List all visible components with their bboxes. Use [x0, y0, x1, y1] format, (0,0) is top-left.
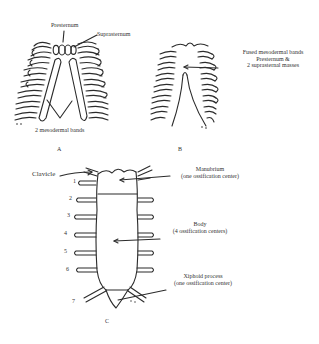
- rib-number-6: 6: [66, 266, 69, 273]
- label-mesodermal-bands: 2 mesodermal bands: [35, 127, 84, 134]
- label-xiphoid: Xiphoid process (one ossification center…: [155, 273, 251, 286]
- label-manubrium-note: (one ossification center): [165, 173, 255, 180]
- rib-number-4: 4: [64, 230, 67, 237]
- panel-caption-a: A: [57, 146, 61, 153]
- label-fused-bands-line2: Presternum &: [228, 56, 318, 63]
- label-body-title: Body: [155, 221, 245, 228]
- panel-caption-b: B: [178, 146, 182, 153]
- panel-caption-c: C: [105, 318, 109, 325]
- rib-number-7: 7: [72, 298, 75, 305]
- label-suprasternum: Suprasternum: [97, 31, 130, 38]
- rib-number-2: 2: [69, 195, 72, 202]
- label-fused-bands-line1: Fused mesodermal bands: [228, 49, 318, 56]
- label-xiphoid-note: (one ossification center): [155, 280, 251, 287]
- label-body-note: (4 ossification centers): [155, 228, 245, 235]
- label-fused-bands: Fused mesodermal bands Presternum & 2 su…: [228, 49, 318, 69]
- rib-number-5: 5: [64, 248, 67, 255]
- panel-b-drawing: [151, 43, 218, 129]
- label-manubrium: Manubrium (one ossification center): [165, 166, 255, 179]
- panel-a-drawing: [15, 31, 108, 125]
- label-body: Body (4 ossification centers): [155, 221, 245, 234]
- panel-c-drawing: [60, 166, 170, 308]
- rib-number-3: 3: [67, 212, 70, 219]
- rib-number-1: 1: [73, 178, 76, 185]
- label-manubrium-title: Manubrium: [165, 166, 255, 173]
- label-presternum: Presternum: [51, 22, 78, 29]
- label-fused-bands-line3: 2 suprasternal masses: [228, 62, 318, 69]
- label-clavicle: Clavicle: [32, 171, 55, 179]
- label-xiphoid-title: Xiphoid process: [155, 273, 251, 280]
